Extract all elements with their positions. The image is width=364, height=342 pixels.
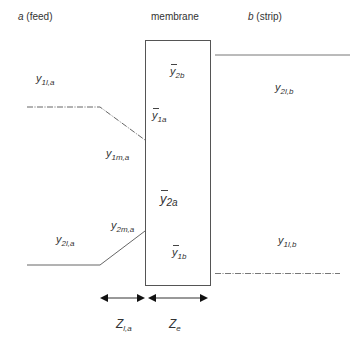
feed-phase-header: a (feed)	[18, 12, 52, 22]
label-zla: Zl,a	[116, 318, 132, 330]
strip-phase-header: b (strip)	[248, 12, 282, 22]
membrane-thickness-arrow	[148, 294, 208, 302]
boundary-layer-thickness-arrow	[100, 294, 145, 302]
diagram-canvas	[0, 0, 364, 342]
label-y1la: y1l,a	[36, 73, 54, 84]
label-ybar2a: y2a	[160, 192, 178, 205]
strip-phase-text: (strip)	[254, 11, 282, 22]
label-ze: Ze	[169, 318, 181, 330]
membrane-header: membrane	[151, 12, 199, 22]
label-y1ma: y1m,a	[106, 148, 129, 159]
label-y2ma: y2m,a	[111, 220, 134, 231]
label-ybar2b: y2b	[170, 66, 184, 77]
label-ybar1a: y1a	[152, 110, 166, 121]
label-y2lb: y2l,b	[275, 82, 293, 93]
feed-component-2-profile	[27, 231, 145, 265]
feed-component-1-profile	[27, 107, 145, 140]
feed-phase-text: (feed)	[24, 11, 53, 22]
label-ybar1b: y1b	[172, 247, 186, 258]
label-y2la: y2l,a	[56, 234, 74, 245]
label-y1lb: y1l,b	[278, 235, 296, 246]
